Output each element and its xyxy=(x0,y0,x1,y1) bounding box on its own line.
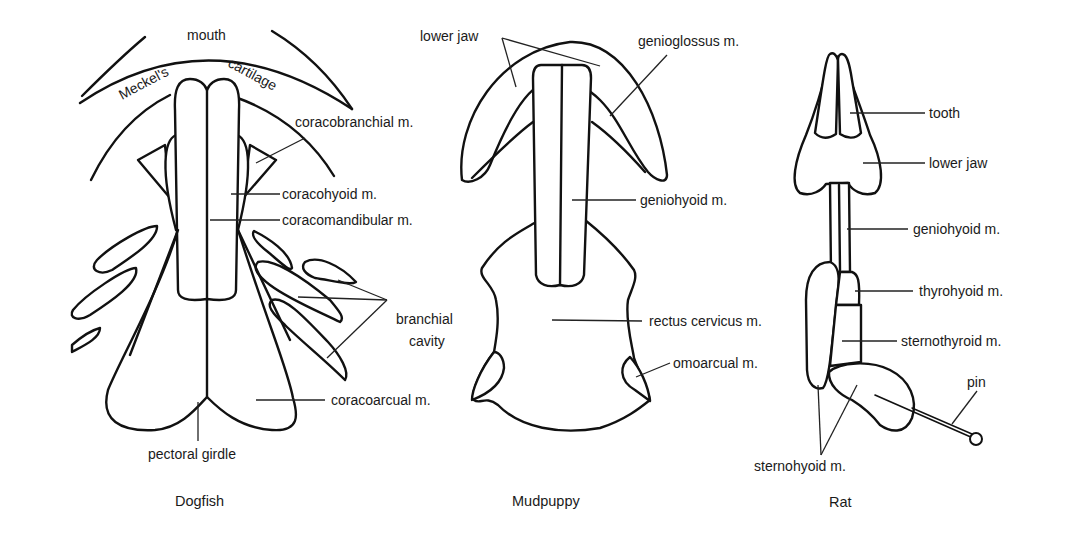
label-thyrohyoid: thyrohyoid m. xyxy=(919,283,1003,299)
label-coracoarcual: coracoarcual m. xyxy=(331,392,431,408)
leader-pin xyxy=(952,391,977,424)
leader-branchial-1 xyxy=(338,280,387,300)
mudpuppy-panel: lower jaw genioglossus m. geniohyoid m. … xyxy=(420,28,762,509)
dogfish-branchial-left-1 xyxy=(94,226,157,272)
label-tooth: tooth xyxy=(929,105,960,121)
dogfish-mouth-outer-right xyxy=(272,31,352,109)
leader-sternohyoid-1 xyxy=(818,385,821,455)
caption-dogfish: Dogfish xyxy=(175,493,224,509)
rat-panel: tooth lower jaw geniohyoid m. thyrohyoid… xyxy=(754,53,1003,510)
label-lower-jaw-rat: lower jaw xyxy=(929,155,988,171)
label-rectus-cervicus: rectus cervicus m. xyxy=(649,313,762,329)
label-cavity: cavity xyxy=(409,333,445,349)
rat-pin-shaft-2 xyxy=(912,408,972,434)
comparative-hypobranchial-muscles-diagram: mouth Meckel's cartilage coracobranchial… xyxy=(0,0,1078,538)
dogfish-branchial-left-3 xyxy=(72,328,100,352)
rat-thyrohyoid xyxy=(836,272,859,305)
rat-geniohyoid-midline xyxy=(839,185,840,270)
label-coracohyoid: coracohyoid m. xyxy=(282,186,377,202)
leader-coracobranchial xyxy=(256,138,305,163)
label-geniohyoid: geniohyoid m. xyxy=(640,192,727,208)
label-lower-jaw: lower jaw xyxy=(420,28,479,44)
label-geniohyoid-rat: geniohyoid m. xyxy=(913,221,1000,237)
label-coracobranchial: coracobranchial m. xyxy=(295,114,413,130)
dogfish-branchial-right-2 xyxy=(303,260,356,284)
dogfish-branchial-left-2 xyxy=(72,268,137,319)
label-coracomandibular: coracomandibular m. xyxy=(282,212,413,228)
label-genioglossus: genioglossus m. xyxy=(638,33,739,49)
leader-sternohyoid-2 xyxy=(821,385,857,455)
label-omoarcual: omoarcual m. xyxy=(673,355,758,371)
rat-pin-head xyxy=(970,433,982,445)
rat-tooth-right xyxy=(838,54,861,138)
rat-sternothyroid xyxy=(830,305,861,366)
label-sternothyroid: sternothyroid m. xyxy=(901,333,1001,349)
rat-tooth-left xyxy=(815,53,838,137)
dogfish-panel: mouth Meckel's cartilage coracobranchial… xyxy=(72,27,453,509)
rat-sternohyoid-lobe xyxy=(829,363,914,430)
caption-rat: Rat xyxy=(829,494,852,510)
label-pectoral-girdle: pectoral girdle xyxy=(148,446,236,462)
label-sternohyoid: sternohyoid m. xyxy=(754,458,846,474)
label-meckels: Meckel's xyxy=(116,63,171,102)
label-branchial: branchial xyxy=(396,311,453,327)
leader-omoarcual xyxy=(636,363,670,377)
caption-mudpuppy: Mudpuppy xyxy=(512,493,580,509)
label-pin: pin xyxy=(967,374,986,390)
label-mouth: mouth xyxy=(187,27,226,43)
